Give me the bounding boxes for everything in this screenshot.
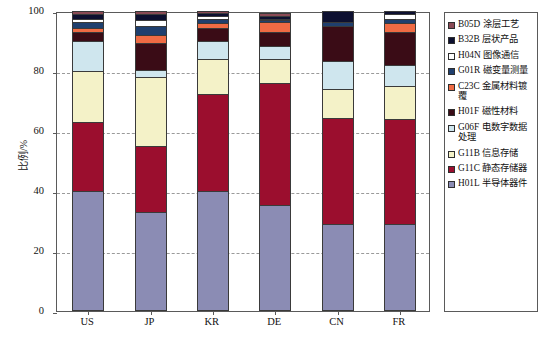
bar-segment-us-g11b[interactable] <box>72 71 104 122</box>
legend-item-7[interactable]: G11B 信息存储 <box>448 148 535 158</box>
legend-swatch-icon <box>448 68 455 75</box>
legend-item-5[interactable]: H01F 磁性材料 <box>448 106 535 116</box>
bar-segment-kr-h01l[interactable] <box>197 191 229 311</box>
bar-segment-fr-h01l[interactable] <box>384 224 416 311</box>
bar-segment-cn-h01l[interactable] <box>322 224 354 311</box>
gridline-20 <box>57 253 429 254</box>
legend-item-label: C23C 金属材料镀覆 <box>458 81 535 102</box>
legend-item-label: G06F 电数字数据处理 <box>458 122 535 143</box>
bar-segment-us-g06f[interactable] <box>72 41 104 71</box>
legend-swatch-icon <box>448 181 455 188</box>
bar-segment-de-g11c[interactable] <box>259 83 291 205</box>
legend-item-label: G01R 磁变量测量 <box>458 65 528 75</box>
bar-segment-cn-g11c[interactable] <box>322 118 354 225</box>
legend-item-label: B05D 涂层工艺 <box>458 19 519 29</box>
x-tick-mark-de <box>275 311 276 315</box>
x-axis-tick-jp: JP <box>120 316 180 327</box>
bar-segment-us-h01l[interactable] <box>72 191 104 311</box>
bar-segment-jp-g01r[interactable] <box>135 26 167 35</box>
bar-segment-fr-g06f[interactable] <box>384 65 416 86</box>
bar-segment-jp-c23c[interactable] <box>135 35 167 43</box>
y-tick-mark-80 <box>53 73 57 74</box>
bar-segment-cn-g11b[interactable] <box>322 89 354 118</box>
bar-segment-us-h01f[interactable] <box>72 32 104 41</box>
bar-segment-de-c23c[interactable] <box>259 22 291 33</box>
legend-item-label: H01F 磁性材料 <box>458 106 518 116</box>
legend-item-1[interactable]: B32B 层状产品 <box>448 34 535 44</box>
legend-item-0[interactable]: B05D 涂层工艺 <box>448 19 535 29</box>
legend-item-8[interactable]: G11C 静态存储器 <box>448 163 535 173</box>
bar-segment-kr-h01f[interactable] <box>197 28 229 42</box>
y-tick-mark-0 <box>53 313 57 314</box>
legend-swatch-icon <box>448 22 455 29</box>
gridline-60 <box>57 133 429 134</box>
bar-segment-kr-g11b[interactable] <box>197 59 229 94</box>
legend-swatch-icon <box>448 151 455 158</box>
plot-area <box>56 12 430 312</box>
gridline-40 <box>57 193 429 194</box>
x-axis-tick-fr: FR <box>369 316 429 327</box>
legend-item-label: H01L 半导体器件 <box>458 178 527 188</box>
x-tick-mark-cn <box>338 311 339 315</box>
x-tick-mark-fr <box>400 311 401 315</box>
bar-segment-jp-g06f[interactable] <box>135 70 167 78</box>
legend-item-label: G11B 信息存储 <box>458 148 518 158</box>
bar-cn[interactable] <box>322 11 354 311</box>
legend-swatch-icon <box>448 53 455 60</box>
bar-segment-us-g11c[interactable] <box>72 122 104 191</box>
bar-segment-jp-h01l[interactable] <box>135 212 167 311</box>
legend-item-9[interactable]: H01L 半导体器件 <box>448 178 535 188</box>
bar-segment-de-g11b[interactable] <box>259 59 291 83</box>
bar-segment-kr-g11c[interactable] <box>197 94 229 192</box>
y-tick-mark-40 <box>53 193 57 194</box>
y-tick-mark-20 <box>53 253 57 254</box>
legend-swatch-icon <box>448 109 455 116</box>
x-tick-mark-kr <box>213 311 214 315</box>
legend-item-4[interactable]: C23C 金属材料镀覆 <box>448 81 535 102</box>
bar-segment-de-g06f[interactable] <box>259 46 291 60</box>
bar-fr[interactable] <box>384 11 416 311</box>
bar-kr[interactable] <box>197 11 229 311</box>
legend-swatch-icon <box>448 84 455 91</box>
bar-segment-fr-h01f[interactable] <box>384 32 416 65</box>
y-axis-tick-100: 100 <box>10 6 44 17</box>
legend-swatch-icon <box>448 125 455 132</box>
y-tick-mark-60 <box>53 133 57 134</box>
gridline-80 <box>57 73 429 74</box>
legend-item-label: B32B 层状产品 <box>458 34 518 44</box>
x-tick-mark-jp <box>151 311 152 315</box>
x-tick-mark-us <box>88 311 89 315</box>
bar-de[interactable] <box>259 11 291 311</box>
bar-jp[interactable] <box>135 11 167 311</box>
x-axis-tick-cn: CN <box>307 316 367 327</box>
legend-item-2[interactable]: H04N 图像通信 <box>448 50 535 60</box>
bar-segment-cn-h01f[interactable] <box>322 26 354 61</box>
bar-segment-kr-g06f[interactable] <box>197 41 229 59</box>
legend-item-label: G11C 静态存储器 <box>458 163 527 173</box>
x-axis-tick-us: US <box>57 316 117 327</box>
bar-us[interactable] <box>72 11 104 311</box>
bar-segment-cn-g06f[interactable] <box>322 61 354 90</box>
bar-segment-cn-b32b[interactable] <box>322 11 354 22</box>
bar-segment-jp-g11b[interactable] <box>135 77 167 146</box>
y-axis-tick-20: 20 <box>10 246 44 257</box>
bar-segment-fr-g11b[interactable] <box>384 86 416 119</box>
y-axis-tick-80: 80 <box>10 66 44 77</box>
bar-segment-jp-h01f[interactable] <box>135 43 167 70</box>
y-axis-tick-60: 60 <box>10 126 44 137</box>
x-axis-tick-de: DE <box>244 316 304 327</box>
bar-segment-de-h01f[interactable] <box>259 32 291 46</box>
bar-segment-fr-g11c[interactable] <box>384 119 416 224</box>
bar-segment-jp-g11c[interactable] <box>135 146 167 212</box>
y-axis-tick-0: 0 <box>10 306 44 317</box>
legend-swatch-icon <box>448 37 455 44</box>
legend-item-3[interactable]: G01R 磁变量测量 <box>448 65 535 75</box>
legend-item-6[interactable]: G06F 电数字数据处理 <box>448 122 535 143</box>
bar-segment-fr-c23c[interactable] <box>384 23 416 32</box>
chart-legend: B05D 涂层工艺B32B 层状产品H04N 图像通信G01R 磁变量测量C23… <box>444 12 538 312</box>
x-axis-tick-kr: KR <box>182 316 242 327</box>
bar-segment-de-h01l[interactable] <box>259 205 291 312</box>
y-axis-tick-40: 40 <box>10 186 44 197</box>
legend-swatch-icon <box>448 166 455 173</box>
legend-item-label: H04N 图像通信 <box>458 50 519 60</box>
